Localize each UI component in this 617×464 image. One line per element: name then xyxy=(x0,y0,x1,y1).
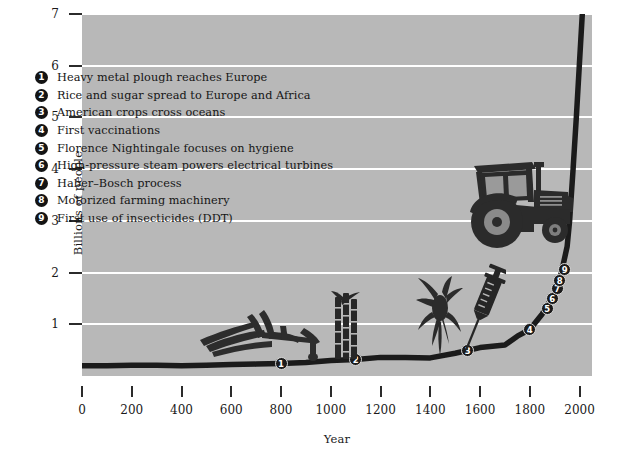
x-tick-mark xyxy=(230,386,232,397)
legend-badge-7: 7 xyxy=(35,177,48,190)
x-tick-2000: 2000 xyxy=(560,386,600,417)
legend-label: Florence Nightingale focuses on hygiene xyxy=(57,142,294,155)
population-timeline-chart: 123456789 xyxy=(0,0,617,464)
x-tick-label: 200 xyxy=(112,403,152,417)
x-tick-1400: 1400 xyxy=(410,386,450,417)
x-tick-1600: 1600 xyxy=(460,386,500,417)
y-tick-mark xyxy=(69,13,82,15)
maize-illustration xyxy=(416,276,464,361)
legend-label: American crops cross oceans xyxy=(57,106,225,119)
legend-badge-6: 6 xyxy=(35,159,48,172)
x-tick-label: 600 xyxy=(211,403,251,417)
x-tick-400: 400 xyxy=(162,386,202,417)
y-tick-mark xyxy=(69,65,82,67)
sugar-cane-illustration xyxy=(330,291,364,363)
y-tick-1: 1 xyxy=(0,317,82,331)
legend-item-5: 5Florence Nightingale focuses on hygiene xyxy=(35,139,365,157)
x-tick-label: 1000 xyxy=(311,403,351,417)
x-axis-title: Year xyxy=(82,432,592,446)
legend-badge-9: 9 xyxy=(35,212,48,225)
x-tick-0: 0 xyxy=(62,386,102,417)
x-tick-200: 200 xyxy=(112,386,152,417)
legend: 1Heavy metal plough reaches Europe2Rice … xyxy=(35,69,365,227)
x-tick-1800: 1800 xyxy=(510,386,550,417)
legend-badge-3: 3 xyxy=(35,106,48,119)
x-tick-mark xyxy=(579,386,581,397)
legend-label: First vaccinations xyxy=(57,124,160,137)
x-tick-label: 2000 xyxy=(560,403,600,417)
legend-label: Haber–Bosch process xyxy=(57,177,182,190)
x-tick-label: 1400 xyxy=(410,403,450,417)
x-tick-mark xyxy=(131,386,133,397)
x-tick-1000: 1000 xyxy=(311,386,351,417)
y-tick-label: 7 xyxy=(51,7,59,21)
y-tick-label: 1 xyxy=(51,317,59,331)
x-tick-label: 400 xyxy=(162,403,202,417)
y-tick-7: 7 xyxy=(0,7,82,21)
x-tick-label: 1800 xyxy=(510,403,550,417)
x-tick-label: 1600 xyxy=(460,403,500,417)
legend-label: Rice and sugar spread to Europe and Afri… xyxy=(57,89,311,102)
legend-item-3: 3American crops cross oceans xyxy=(35,104,365,122)
legend-label: Motorized farming machinery xyxy=(57,194,230,207)
x-tick-label: 1200 xyxy=(361,403,401,417)
legend-item-2: 2Rice and sugar spread to Europe and Afr… xyxy=(35,87,365,105)
legend-item-6: 6High-pressure steam powers electrical t… xyxy=(35,157,365,175)
tractor-illustration xyxy=(456,160,574,260)
x-tick-mark xyxy=(380,386,382,397)
y-tick-label: 2 xyxy=(51,266,59,280)
plough-illustration xyxy=(192,302,324,364)
x-tick-mark xyxy=(479,386,481,397)
legend-badge-4: 4 xyxy=(35,124,48,137)
x-tick-800: 800 xyxy=(261,386,301,417)
x-tick-1200: 1200 xyxy=(361,386,401,417)
legend-item-7: 7Haber–Bosch process xyxy=(35,175,365,193)
syringe-illustration xyxy=(460,262,506,354)
x-tick-mark xyxy=(330,386,332,397)
x-tick-label: 0 xyxy=(62,403,102,417)
legend-label: First use of insecticides (DDT) xyxy=(57,212,233,225)
legend-badge-2: 2 xyxy=(35,89,48,102)
x-tick-mark xyxy=(280,386,282,397)
y-tick-2: 2 xyxy=(0,266,82,280)
x-tick-mark xyxy=(181,386,183,397)
y-tick-mark xyxy=(69,323,82,325)
x-tick-mark xyxy=(81,386,83,397)
x-tick-mark xyxy=(429,386,431,397)
legend-label: High-pressure steam powers electrical tu… xyxy=(57,159,333,172)
legend-item-4: 4First vaccinations xyxy=(35,122,365,140)
legend-item-8: 8Motorized farming machinery xyxy=(35,192,365,210)
legend-label: Heavy metal plough reaches Europe xyxy=(57,71,267,84)
x-tick-mark xyxy=(529,386,531,397)
legend-badge-8: 8 xyxy=(35,194,48,207)
legend-badge-1: 1 xyxy=(35,71,48,84)
legend-badge-5: 5 xyxy=(35,142,48,155)
legend-item-9: 9First use of insecticides (DDT) xyxy=(35,210,365,228)
legend-item-1: 1Heavy metal plough reaches Europe xyxy=(35,69,365,87)
x-tick-600: 600 xyxy=(211,386,251,417)
x-tick-label: 800 xyxy=(261,403,301,417)
